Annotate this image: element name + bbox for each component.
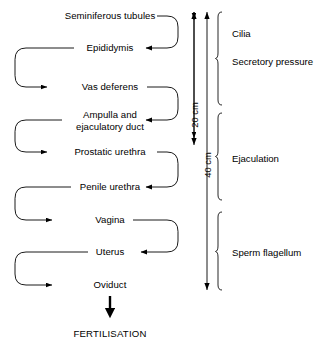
link-epididymis-to-vas-deferens <box>15 48 74 87</box>
phase-label-secretory-pressure: Secretory pressure <box>232 56 313 67</box>
node-label-epididymis: Epididymis <box>87 42 134 54</box>
node-label-penile-urethra: Penile urethra <box>80 181 140 193</box>
outcome-label-fertilisation: FERTILISATION <box>73 328 146 339</box>
diagram-connectors <box>0 0 319 348</box>
measure-label-40cm: 40 cm <box>202 152 213 178</box>
link-vagina-to-uterus <box>133 220 178 252</box>
node-label-seminiferous-tubules: Seminiferous tubules <box>65 10 156 22</box>
link-ampulla-to-prostatic-urethra <box>15 120 62 152</box>
node-label-uterus: Uterus <box>96 246 125 258</box>
node-label-prostatic-urethra: Prostatic urethra <box>74 146 145 158</box>
node-label-vas-deferens: Vas deferens <box>82 81 138 93</box>
sperm-transport-diagram: Seminiferous tubules Epididymis Vas defe… <box>0 0 319 348</box>
measure-label-20cm: 20 cm <box>189 102 200 128</box>
bracket-sperm-flagellum <box>216 212 223 290</box>
phase-label-sperm-flagellum: Sperm flagellum <box>232 247 301 258</box>
link-penile-urethra-to-vagina <box>15 187 71 220</box>
link-vas-deferens-to-ampulla <box>146 87 178 120</box>
node-label-ampulla-ejaculatory-duct: Ampulla and ejaculatory duct <box>76 109 144 132</box>
link-uterus-to-oviduct <box>15 252 88 285</box>
bracket-ejaculation <box>216 113 223 200</box>
link-prostatic-to-penile-urethra <box>146 152 178 187</box>
node-label-oviduct: Oviduct <box>94 279 127 291</box>
phase-label-ejaculation: Ejaculation <box>232 153 279 164</box>
node-label-vagina: Vagina <box>95 214 124 226</box>
phase-label-cilia: Cilia <box>232 28 251 39</box>
bracket-cilia-secretory <box>216 12 223 105</box>
